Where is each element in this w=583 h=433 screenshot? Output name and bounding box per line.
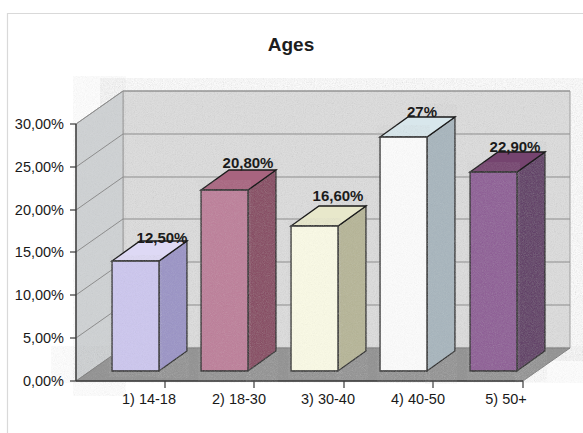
data-label-2: 20,80% [223, 154, 274, 171]
bar-4-side [427, 117, 455, 371]
y-tick-label-5: 5,00% [23, 330, 64, 346]
chart-title: Ages [268, 34, 314, 55]
bar-3[interactable] [291, 206, 366, 371]
bar-2-front [201, 190, 248, 371]
x-tick-label-3: 3) 30-40 [301, 391, 355, 407]
y-tick-label-30: 30,00% [15, 116, 64, 132]
bar-5[interactable] [470, 152, 545, 371]
y-tick-label-15: 15,00% [15, 244, 64, 260]
x-tick-label-4: 4) 40-50 [391, 391, 445, 407]
bar-3-front [291, 226, 338, 371]
bar-2[interactable] [201, 170, 276, 371]
y-tick-label-0: 0,00% [23, 373, 64, 389]
x-tick-label-5: 5) 50+ [485, 391, 527, 407]
data-label-5: 22,90% [490, 138, 541, 155]
chart-figure: Ages 30,00% 25,00% 20,00% 15,00% 10,00% … [0, 0, 583, 433]
data-label-4: 27% [407, 103, 437, 120]
data-label-3: 16,60% [313, 187, 364, 204]
bar-5-front [470, 172, 517, 371]
bar-1-front [112, 261, 159, 371]
bar-2-side [248, 170, 276, 371]
bar-1[interactable] [112, 241, 187, 371]
bar-3-side [338, 206, 366, 371]
x-tick-label-1: 1) 14-18 [122, 391, 176, 407]
bar-4[interactable] [380, 117, 455, 371]
bar-1-side [159, 241, 187, 371]
ages-bar-chart: Ages 30,00% 25,00% 20,00% 15,00% 10,00% … [0, 0, 583, 433]
y-tick-label-10: 10,00% [15, 287, 64, 303]
y-tick-label-25: 25,00% [15, 159, 64, 175]
bar-5-side [517, 152, 545, 371]
bar-4-front [380, 137, 427, 371]
x-tick-label-2: 2) 18-30 [212, 391, 266, 407]
y-tick-label-20: 20,00% [15, 202, 64, 218]
data-label-1: 12,50% [137, 229, 188, 246]
